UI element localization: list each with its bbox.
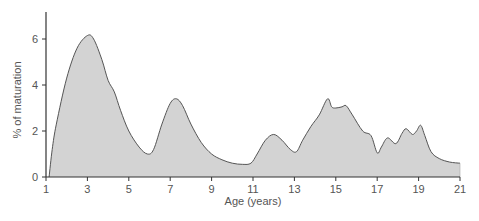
x-tick-label: 9 (209, 183, 215, 195)
x-tick-label: 1 (43, 183, 49, 195)
y-tick-label: 0 (32, 171, 38, 183)
x-tick-label: 11 (247, 183, 258, 195)
y-tick-label: 4 (32, 79, 38, 91)
x-tick-label: 3 (84, 183, 90, 195)
x-tick-label: 13 (288, 183, 300, 195)
x-tick-label: 7 (167, 183, 173, 195)
x-axis-title: Age (years) (225, 195, 282, 207)
y-axis-title: % of maturation (11, 61, 23, 138)
y-tick-label: 2 (32, 125, 38, 137)
x-tick-label: 5 (126, 183, 132, 195)
maturation-area-chart: 135791113151719210246 Age (years) % of m… (0, 0, 479, 221)
x-tick-label: 17 (371, 183, 383, 195)
plot-area (49, 35, 460, 177)
x-tick-label: 15 (330, 183, 342, 195)
x-tick-label: 21 (454, 183, 466, 195)
y-tick-label: 6 (32, 33, 38, 45)
x-tick-label: 19 (412, 183, 424, 195)
area-fill (49, 35, 460, 177)
